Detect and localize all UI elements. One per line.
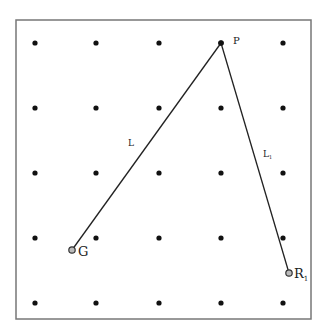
grid-dot <box>156 40 161 45</box>
label-L1-subscript: 1 <box>269 154 272 160</box>
grid-dot <box>93 300 98 305</box>
grid-dot <box>32 40 37 45</box>
point-R1-marker <box>286 270 292 276</box>
grid-dot <box>156 300 161 305</box>
grid-dot <box>218 105 223 110</box>
segment-L1 <box>221 43 289 273</box>
grid-dot <box>218 235 223 240</box>
label-L1: L1 <box>263 149 272 160</box>
grid-dot <box>156 170 161 175</box>
label-G: G <box>78 244 88 259</box>
grid-dot <box>93 40 98 45</box>
point-P <box>218 40 224 46</box>
grid-dot <box>280 40 285 45</box>
grid-dot <box>93 235 98 240</box>
label-P: P <box>233 35 240 46</box>
grid-dot <box>280 235 285 240</box>
grid-dot <box>93 170 98 175</box>
grid-dot <box>32 170 37 175</box>
grid-dot <box>32 105 37 110</box>
grid-dot <box>32 235 37 240</box>
grid-dot <box>93 105 98 110</box>
segment-L <box>72 43 221 250</box>
grid-dot <box>280 105 285 110</box>
label-L: L <box>128 138 134 148</box>
grid-dot <box>218 170 223 175</box>
grid-dot <box>280 170 285 175</box>
grid-dot <box>218 300 223 305</box>
label-R1: R1 <box>294 266 308 283</box>
point-G-marker <box>69 247 75 253</box>
label-R1-subscript: 1 <box>304 275 308 283</box>
grid-dot <box>32 300 37 305</box>
grid-dots <box>32 40 285 305</box>
frame-border <box>16 20 311 319</box>
grid-dot <box>156 105 161 110</box>
grid-dot <box>280 300 285 305</box>
lattice-diagram: P G R1 L L1 <box>0 0 325 332</box>
grid-dot <box>156 235 161 240</box>
